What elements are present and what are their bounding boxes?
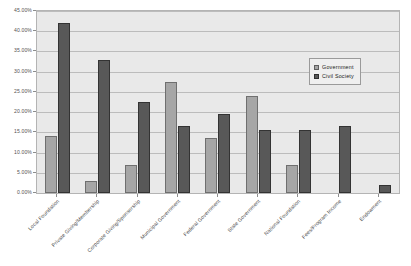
bar-civil-society: [339, 126, 351, 193]
bar-government: [45, 136, 57, 193]
x-tick-mark: [338, 194, 339, 197]
x-tick-mark: [96, 194, 97, 197]
bar-government: [85, 181, 97, 193]
bar-government: [205, 138, 217, 193]
bar-group: [359, 11, 399, 193]
y-tick-label: 5.00%: [17, 169, 32, 175]
bar-civil-society: [259, 130, 271, 193]
bar-group: [37, 11, 77, 193]
bar-government: [125, 165, 137, 193]
x-tick-mark: [257, 194, 258, 197]
legend-item: Civil Society: [314, 72, 354, 80]
x-tick-mark: [378, 194, 379, 197]
x-tick-mark: [217, 194, 218, 197]
x-axis: Local FoundationPrivate Giving/Membershi…: [36, 194, 400, 266]
bar-group: [238, 11, 278, 193]
y-tick-label: 35.00%: [14, 47, 32, 53]
legend: Government Civil Society: [309, 58, 361, 85]
legend-swatch-government-icon: [314, 65, 319, 70]
x-tick-label: Fees/Program Income: [300, 198, 342, 240]
x-tick-mark: [137, 194, 138, 197]
y-tick-label: 40.00%: [14, 27, 32, 33]
legend-item: Government: [314, 63, 354, 71]
y-tick-label: 20.00%: [14, 108, 32, 114]
y-axis: 45.00%40.00%35.00%30.00%25.00%20.00%15.0…: [0, 0, 36, 200]
bar-group: [77, 11, 117, 193]
bar-group: [278, 11, 318, 193]
x-tick-label: State Government: [226, 198, 261, 233]
bar-civil-society: [379, 185, 391, 193]
y-tick-label: 30.00%: [14, 68, 32, 74]
bar-group: [198, 11, 238, 193]
y-tick-label: 10.00%: [14, 149, 32, 155]
x-tick-mark: [56, 194, 57, 197]
x-tick-label: Federal Government: [182, 198, 221, 237]
bar-group: [319, 11, 359, 193]
bar-civil-society: [98, 60, 110, 193]
bar-chart: 45.00%40.00%35.00%30.00%25.00%20.00%15.0…: [0, 0, 411, 266]
bar-civil-society: [178, 126, 190, 193]
x-tick-label: Local Foundation: [27, 198, 61, 232]
legend-label-government: Government: [322, 64, 354, 70]
bar-government: [286, 165, 298, 193]
legend-label-civil-society: Civil Society: [322, 73, 354, 79]
y-tick-label: 25.00%: [14, 88, 32, 94]
plot-area: Government Civil Society: [36, 10, 400, 194]
bar-government: [165, 82, 177, 193]
y-tick-label: 0.00%: [17, 189, 32, 195]
bar-civil-society: [299, 130, 311, 193]
x-tick-label: Municipal Government: [139, 198, 181, 240]
bar-group: [158, 11, 198, 193]
bar-group: [117, 11, 157, 193]
x-tick-mark: [297, 194, 298, 197]
x-tick-label: National Foundation: [263, 198, 301, 236]
y-tick-label: 15.00%: [14, 128, 32, 134]
bar-civil-society: [218, 114, 230, 193]
bar-civil-society: [138, 102, 150, 193]
bar-civil-society: [58, 23, 70, 193]
bar-government: [246, 96, 258, 193]
legend-swatch-civil-society-icon: [314, 74, 319, 79]
y-tick-label: 45.00%: [14, 7, 32, 13]
x-tick-mark: [177, 194, 178, 197]
x-tick-label: Endowment: [358, 198, 382, 222]
